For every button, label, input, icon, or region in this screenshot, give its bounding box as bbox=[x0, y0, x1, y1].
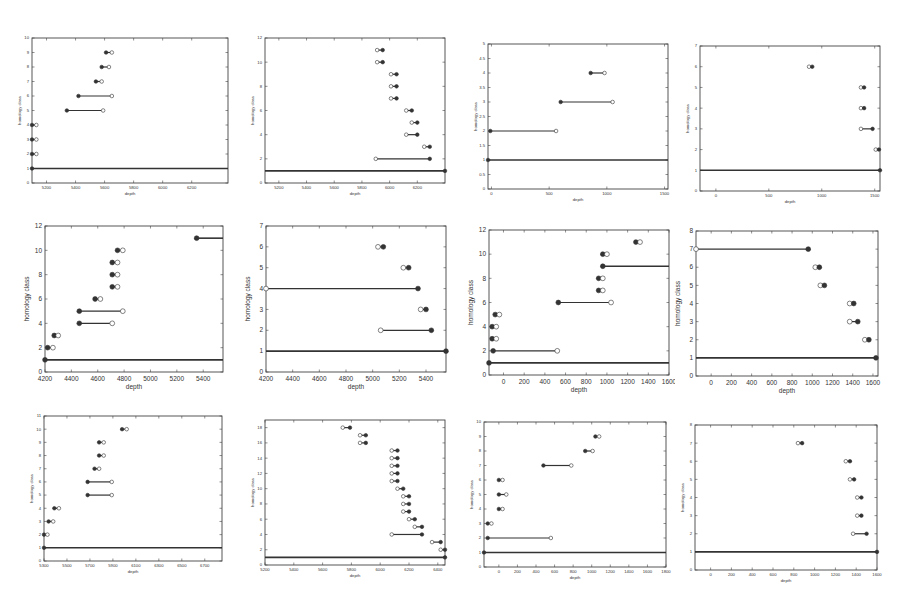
x-tick-label: 1200 bbox=[825, 379, 840, 386]
barcode-panel-5: 4200440046004800500052005400024681012dep… bbox=[23, 220, 229, 398]
y-tick-label: 1 bbox=[479, 550, 482, 555]
y-tick-label: 6 bbox=[39, 479, 42, 484]
x-axis-label: depth bbox=[126, 383, 143, 391]
y-tick-label: 3 bbox=[483, 99, 486, 104]
y-tick-label: 7 bbox=[259, 222, 263, 229]
y-tick-label: 4 bbox=[38, 320, 42, 327]
x-tick-label: 4600 bbox=[312, 375, 327, 382]
y-tick-label: 6 bbox=[259, 243, 263, 250]
y-tick-label: 0 bbox=[479, 564, 482, 569]
x-tick-label: 200 bbox=[514, 569, 522, 574]
y-tick-label: 12 bbox=[35, 222, 43, 229]
y-tick-label: 8 bbox=[482, 275, 486, 282]
y-tick-label: 6 bbox=[27, 93, 30, 98]
barcode-interval bbox=[52, 333, 61, 338]
y-tick-label: 10 bbox=[35, 247, 43, 254]
y-tick-label: 0 bbox=[482, 371, 486, 378]
x-tick-label: 4200 bbox=[259, 375, 274, 382]
x-tick-label: 0 bbox=[709, 379, 713, 386]
x-tick-label: 500 bbox=[765, 193, 773, 198]
x-tick-label: 0 bbox=[502, 378, 506, 385]
y-tick-label: 4 bbox=[482, 323, 486, 330]
x-tick-label: 5700 bbox=[85, 563, 95, 568]
x-tick-label: 400 bbox=[539, 378, 550, 385]
x-axis-label: depth bbox=[571, 386, 588, 394]
y-tick-label: 2 bbox=[482, 347, 486, 354]
plot-area bbox=[484, 422, 666, 567]
y-axis-label: homology class bbox=[469, 480, 474, 509]
x-tick-label: 5400 bbox=[289, 567, 299, 572]
y-tick-label: 10 bbox=[257, 60, 262, 65]
y-tick-label: 10 bbox=[479, 250, 487, 257]
x-tick-label: 5200 bbox=[170, 375, 185, 382]
y-tick-label: 14 bbox=[257, 456, 262, 461]
x-axis-label: depth bbox=[350, 573, 361, 578]
y-tick-label: 6 bbox=[38, 295, 42, 302]
x-tick-label: 800 bbox=[570, 569, 578, 574]
y-tick-label: 0 bbox=[27, 180, 30, 185]
y-tick-label: 2 bbox=[27, 151, 30, 156]
x-tick-label: 1000 bbox=[810, 572, 820, 577]
y-tick-label: 0 bbox=[38, 368, 42, 375]
x-tick-label: 6200 bbox=[413, 185, 423, 190]
y-tick-label: 12 bbox=[257, 35, 262, 40]
x-tick-label: 4400 bbox=[285, 375, 300, 382]
y-tick-label: 1 bbox=[483, 157, 486, 162]
y-tick-label: 0 bbox=[695, 188, 698, 193]
x-tick-label: 800 bbox=[790, 572, 798, 577]
y-tick-label: 10 bbox=[36, 427, 41, 432]
y-axis-label: homology class bbox=[473, 102, 478, 131]
x-axis-label: depth bbox=[781, 578, 792, 583]
y-tick-label: 8 bbox=[38, 271, 42, 278]
x-tick-label: 4400 bbox=[64, 375, 79, 382]
x-tick-label: 600 bbox=[766, 379, 777, 386]
y-tick-label: 2 bbox=[39, 532, 42, 537]
y-tick-label: 1.5 bbox=[479, 143, 485, 148]
y-tick-label: 4 bbox=[260, 132, 263, 137]
y-tick-label: 11 bbox=[37, 413, 42, 418]
y-tick-label: 0 bbox=[483, 186, 486, 191]
y-tick-label: 12 bbox=[257, 471, 262, 476]
y-tick-label: 8 bbox=[689, 227, 693, 234]
x-tick-label: 5200 bbox=[392, 375, 407, 382]
y-tick-label: 8 bbox=[260, 501, 263, 506]
x-tick-label: 6000 bbox=[385, 185, 395, 190]
x-tick-label: 400 bbox=[746, 379, 757, 386]
x-tick-label: 5400 bbox=[302, 185, 312, 190]
y-tick-label: 3 bbox=[259, 306, 263, 313]
y-tick-label: 5 bbox=[39, 492, 42, 497]
y-tick-label: 3.5 bbox=[479, 85, 485, 90]
y-axis-label: homology class bbox=[250, 478, 255, 507]
y-tick-label: 10 bbox=[24, 35, 29, 40]
x-tick-label: 6000 bbox=[158, 185, 168, 190]
x-tick-label: 5000 bbox=[143, 375, 158, 382]
x-tick-label: 4800 bbox=[339, 375, 354, 382]
x-tick-label: 4600 bbox=[91, 375, 106, 382]
barcode-interval bbox=[596, 288, 605, 293]
barcode-interval bbox=[490, 324, 499, 329]
barcode-interval bbox=[600, 252, 609, 257]
y-tick-label: 4 bbox=[479, 506, 482, 511]
x-tick-label: 1200 bbox=[606, 569, 616, 574]
x-tick-label: 6000 bbox=[376, 567, 386, 572]
y-tick-label: 1 bbox=[690, 549, 693, 554]
y-tick-label: 9 bbox=[39, 440, 42, 445]
y-tick-label: 1 bbox=[695, 168, 698, 173]
y-axis-label: homology class bbox=[29, 474, 34, 503]
x-axis-label: depth bbox=[350, 191, 361, 196]
x-tick-label: 600 bbox=[770, 572, 778, 577]
x-tick-label: 5900 bbox=[108, 563, 118, 568]
x-tick-label: 200 bbox=[519, 378, 530, 385]
barcode-panel-8: 02004006008001000120014001600012345678de… bbox=[674, 225, 884, 402]
y-tick-label: 9 bbox=[479, 434, 482, 439]
y-tick-label: 7 bbox=[690, 441, 693, 446]
y-tick-label: 8 bbox=[690, 422, 693, 427]
y-tick-label: 2 bbox=[259, 326, 263, 333]
x-tick-label: 1500 bbox=[870, 193, 880, 198]
y-tick-label: 0 bbox=[260, 180, 263, 185]
x-tick-label: 800 bbox=[581, 378, 592, 385]
barcode-panel-7: 02004006008001000120014001600024681012de… bbox=[467, 224, 675, 401]
y-tick-label: 6 bbox=[482, 299, 486, 306]
x-tick-label: 5800 bbox=[347, 567, 357, 572]
x-tick-label: 1400 bbox=[852, 572, 862, 577]
